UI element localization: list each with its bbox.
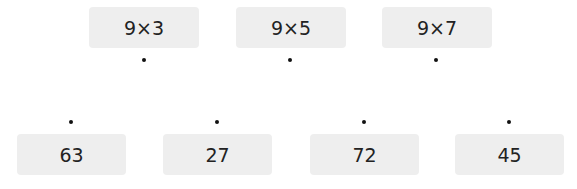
answer-label: 63 (59, 144, 83, 166)
connector-dot-answer-2[interactable] (215, 120, 219, 124)
connector-dot-expression-3[interactable] (434, 58, 438, 62)
connector-dot-answer-4[interactable] (507, 120, 511, 124)
answer-card-2[interactable]: 27 (163, 134, 272, 175)
expression-card-3[interactable]: 9×7 (382, 7, 492, 48)
expression-label: 9×3 (124, 17, 164, 39)
connector-dot-answer-1[interactable] (69, 120, 73, 124)
connector-dot-expression-2[interactable] (288, 58, 292, 62)
answer-card-1[interactable]: 63 (17, 134, 126, 175)
answer-label: 45 (497, 144, 521, 166)
answer-label: 27 (205, 144, 229, 166)
expression-card-2[interactable]: 9×5 (236, 7, 346, 48)
expression-label: 9×5 (271, 17, 311, 39)
answer-card-4[interactable]: 45 (455, 134, 564, 175)
answer-card-3[interactable]: 72 (310, 134, 419, 175)
answer-label: 72 (352, 144, 376, 166)
expression-label: 9×7 (417, 17, 457, 39)
connector-dot-expression-1[interactable] (142, 58, 146, 62)
connector-dot-answer-3[interactable] (362, 120, 366, 124)
expression-card-1[interactable]: 9×3 (89, 7, 199, 48)
